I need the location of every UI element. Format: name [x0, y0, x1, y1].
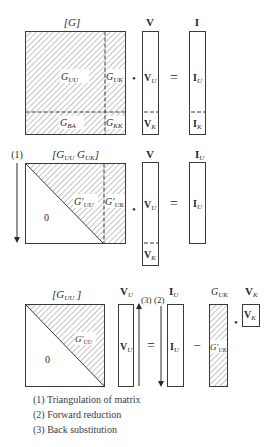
- equals-sign: =: [170, 196, 178, 211]
- legend-item-forward-reduction: (2) Forward reduction: [33, 409, 121, 421]
- legend-item-back-substitution: (3) Back substitution: [33, 424, 117, 436]
- step-1-label: (1): [11, 149, 23, 161]
- panel-3-reduced-system: [GUU ] VU IU GUK VK G′UU 0 VU (3) = (2) …: [26, 285, 260, 387]
- minus-sign: −: [193, 338, 200, 353]
- guk-label: GUK: [211, 286, 228, 299]
- vector-i-label: I: [195, 16, 199, 28]
- panel-2-triangulation: (1) [GUU GUK] V IU G′UU G′UK 0 • VU VK =…: [11, 148, 205, 266]
- equals-sign: =: [170, 70, 178, 85]
- zero-label: 0: [44, 212, 49, 223]
- diagram-canvas: [G] V I GUU GUK GBA GKK • VU VK = IU IK …: [0, 0, 270, 447]
- multiply-dot: •: [234, 316, 238, 328]
- vector-iu-label: IU: [169, 285, 179, 299]
- zero-label: 0: [45, 354, 50, 365]
- vk-label: VK: [245, 285, 258, 299]
- multiply-dot: •: [132, 72, 136, 84]
- vector-vu-label: VU: [120, 285, 134, 299]
- vector-v-label: V: [146, 148, 154, 160]
- step-3-label: (3): [141, 295, 152, 305]
- equals-sign: =: [147, 338, 155, 353]
- step-2-label: (2): [154, 295, 165, 305]
- matrix-guu-guk-label: [GUU GUK]: [52, 148, 99, 162]
- vector-iu-label: IU: [195, 148, 205, 162]
- matrix-guu-label: [GUU ]: [52, 288, 81, 302]
- legend-item-triangulation: (1) Triangulation of matrix: [33, 394, 141, 406]
- matrix-g-label: [G]: [64, 16, 81, 28]
- vector-v-label: V: [146, 16, 154, 28]
- panel-1-full-system: [G] V I GUU GUK GBA GKK • VU VK = IU IK: [26, 16, 206, 135]
- multiply-dot: •: [132, 203, 136, 215]
